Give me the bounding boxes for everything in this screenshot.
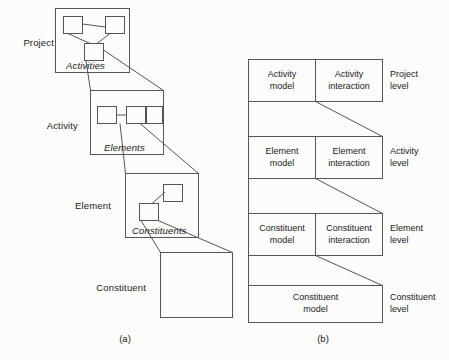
row-1-model-label: Activity model [248,68,316,92]
zoom-line-activity-element-right [140,124,199,174]
project-node-top-left [64,17,83,34]
row-4-model-label: Constituent model [248,291,383,315]
project-edge-tl-tr [83,24,106,27]
level-label-element: Element [6,200,111,211]
row-1-interaction-label: Activity interaction [315,68,383,92]
row-3-level-label: Element level [390,222,423,246]
figure-root: Project Activity Element Constituent Act… [0,0,449,360]
row-1-level-label: Project level [390,68,418,92]
activity-node-3 [147,107,163,124]
row-3-model-label: Constituent model [248,222,316,246]
constituent-box [161,253,233,318]
row-3-interaction-label: Constituent interaction [315,222,383,246]
project-edge-tr-bottom [97,34,110,44]
caption-b: (b) [303,333,343,344]
element-node-upper [164,185,183,202]
row-2-interaction-label: Element interaction [315,145,383,169]
box-label-constituents: Constituents [132,225,187,236]
element-node-lower [140,204,159,221]
diagram-a-shapes [56,9,233,318]
row-4-level-label: Constituent level [390,291,436,315]
row-2-funnel-diagonal [316,179,383,214]
activity-node-2 [127,107,146,124]
level-label-constituent: Constituent [6,282,146,293]
row-1-funnel-diagonal [316,102,383,137]
box-label-elements: Elements [104,142,145,153]
level-label-activity: Activity [6,120,78,131]
caption-a: (a) [105,333,145,344]
level-label-project: Project [6,37,54,48]
project-node-bottom [85,44,104,61]
row-2-level-label: Activity level [390,145,419,169]
row-2-model-label: Element model [248,145,316,169]
project-node-top-right [106,17,125,34]
diagram-b-shapes [249,60,383,323]
row-3-funnel-diagonal [316,256,383,286]
box-label-activities: Activities [66,60,105,71]
project-edge-tl-bottom [68,34,90,44]
activity-node-1 [98,107,117,124]
zoom-line-project-activity-right [104,50,164,91]
